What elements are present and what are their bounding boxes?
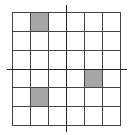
x-axis: [7, 69, 127, 70]
shaded-cell: [30, 12, 48, 31]
y-axis: [66, 5, 67, 132]
shaded-cell: [84, 69, 102, 88]
shaded-cell: [30, 87, 48, 106]
